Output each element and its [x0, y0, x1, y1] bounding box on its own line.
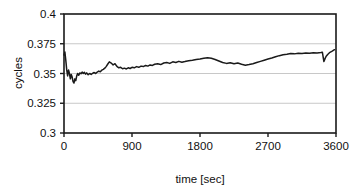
- y-axis-tick-labels: 0.30.3250.350.3750.4: [27, 8, 56, 139]
- series-line: [64, 50, 334, 83]
- x-axis-title: time [sec]: [175, 173, 224, 185]
- grid-lines: [64, 44, 336, 104]
- x-axis-tick-labels: 0900180027003600: [61, 140, 349, 152]
- y-axis-title: cycles: [12, 57, 24, 89]
- x-tick-label: 900: [122, 140, 141, 152]
- y-tick-label: 0.3: [40, 127, 56, 139]
- data-series-cycles: [64, 50, 334, 83]
- y-tick-label: 0.4: [40, 8, 57, 20]
- y-tick-label: 0.375: [27, 38, 56, 50]
- x-tick-label: 1800: [187, 140, 213, 152]
- x-tick-label: 0: [61, 140, 67, 152]
- x-tick-label: 2700: [255, 140, 281, 152]
- chart-container: 0.30.3250.350.3750.4 0900180027003600 ti…: [0, 0, 362, 189]
- y-tick-label: 0.35: [34, 68, 56, 80]
- x-tick-label: 3600: [323, 140, 349, 152]
- y-tick-label: 0.325: [27, 97, 56, 109]
- line-chart: 0.30.3250.350.3750.4 0900180027003600 ti…: [0, 0, 362, 189]
